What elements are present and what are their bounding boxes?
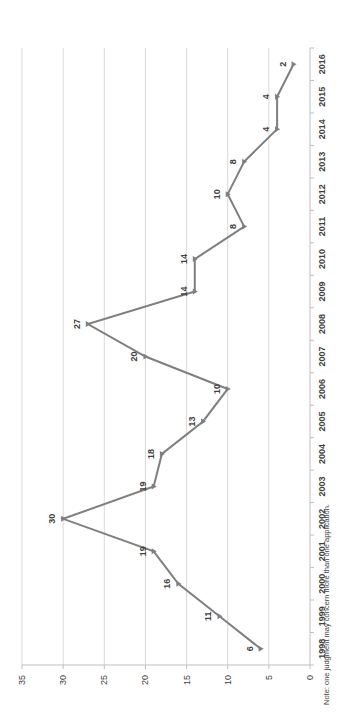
- data-label: 14: [179, 287, 189, 297]
- axes: [22, 48, 314, 669]
- year-label: 2015: [317, 87, 327, 107]
- year-label: 2005: [317, 411, 327, 431]
- data-label: 10: [212, 189, 222, 199]
- value-tick-label: 5: [264, 675, 274, 680]
- data-label: 8: [228, 159, 238, 164]
- year-label: 2003: [317, 476, 327, 496]
- year-label: 2012: [317, 184, 327, 204]
- data-label: 16: [162, 579, 172, 589]
- data-label: 18: [146, 449, 156, 459]
- value-tick-label: 15: [182, 675, 192, 685]
- year-label: 2009: [317, 282, 327, 302]
- data-label: 2: [278, 62, 288, 67]
- data-label: 27: [72, 319, 82, 329]
- triangle-marker-icon: [292, 61, 297, 67]
- year-label: 2016: [317, 54, 327, 74]
- year-label: 2010: [317, 249, 327, 269]
- year-label: 2011: [317, 217, 327, 237]
- data-label: 20: [129, 351, 139, 361]
- year-label: 2007: [317, 346, 327, 366]
- value-tick-label: 30: [58, 675, 68, 685]
- year-label: 2013: [317, 152, 327, 172]
- year-label: 2004: [317, 444, 327, 464]
- triangle-marker-icon: [259, 646, 264, 652]
- data-labels: 61116193019181310202714148108442: [47, 62, 287, 652]
- data-label: 6: [245, 646, 255, 651]
- data-label: 13: [187, 416, 197, 426]
- value-axis-labels: 05101520253035: [17, 675, 315, 685]
- data-label: 4: [261, 127, 271, 132]
- series-line-path: [63, 64, 293, 649]
- data-label: 10: [212, 384, 222, 394]
- value-tick-label: 25: [99, 675, 109, 685]
- value-tick-label: 20: [140, 675, 150, 685]
- year-label: 2008: [317, 314, 327, 334]
- chart-note: Note: one judgment may concern more than…: [322, 504, 331, 705]
- year-label: 2014: [317, 119, 327, 139]
- series-line: [61, 61, 296, 652]
- triangle-marker-icon: [61, 516, 66, 522]
- value-tick-label: 10: [223, 675, 233, 685]
- data-label: 4: [261, 94, 271, 99]
- data-label: 8: [228, 224, 238, 229]
- value-tick-label: 35: [17, 675, 27, 685]
- rotated-line-chart: 05101520253035 1998199920002001200220032…: [0, 0, 355, 723]
- triangle-marker-icon: [242, 224, 247, 230]
- data-label: 14: [179, 254, 189, 264]
- value-tick-label: 0: [305, 675, 315, 680]
- data-label: 30: [47, 514, 57, 524]
- data-label: 19: [138, 546, 148, 556]
- data-label: 19: [138, 481, 148, 491]
- year-label: 2006: [317, 379, 327, 399]
- data-label: 11: [203, 612, 213, 622]
